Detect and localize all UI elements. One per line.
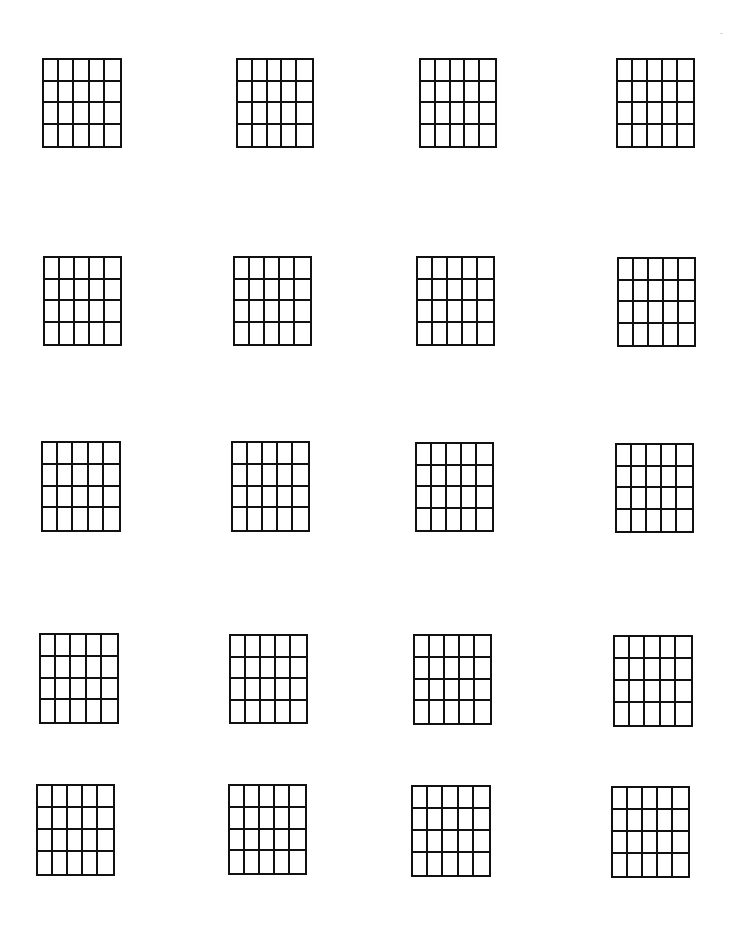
grid-cell: [448, 280, 463, 302]
grid-cell: [628, 788, 643, 810]
grid-cell: [432, 444, 447, 466]
grid-cell: [663, 125, 678, 147]
grid-cell: [260, 851, 275, 873]
grid-cell: [43, 508, 58, 530]
grid-cell: [43, 465, 58, 487]
grid-cell: [664, 324, 679, 346]
grid-cell: [664, 281, 679, 303]
grid-cell: [73, 487, 88, 509]
grid-cell: [276, 701, 291, 723]
grid-cell: [233, 508, 248, 530]
grid-cell: [231, 636, 246, 658]
grid-cell: [263, 443, 278, 465]
grid-cell: [74, 125, 89, 147]
grid-cell: [276, 658, 291, 680]
grid-cell: [58, 465, 73, 487]
grid-cell: [56, 635, 71, 657]
grid-cell: [68, 808, 83, 830]
grid-cell: [58, 487, 73, 509]
grid-cell: [102, 635, 117, 657]
grid-cell: [634, 324, 649, 346]
grid-cell: [421, 103, 436, 125]
grid-cell: [53, 830, 68, 852]
grid-cell: [245, 851, 260, 873]
grid-cell: [265, 323, 280, 345]
grid-cell: [451, 103, 466, 125]
grid-cell: [43, 443, 58, 465]
chord-diagram-grid: [229, 634, 308, 724]
grid-cell: [673, 832, 688, 854]
grid-cell: [275, 808, 290, 830]
chord-diagram-grid: [42, 58, 122, 148]
grid-cell: [617, 467, 632, 489]
grid-cell: [448, 301, 463, 323]
grid-cell: [676, 681, 691, 703]
grid-cell: [238, 82, 253, 104]
grid-cell: [478, 323, 493, 345]
chord-diagram-grid: [236, 58, 314, 148]
grid-cell: [74, 60, 89, 82]
grid-cell: [268, 125, 283, 147]
grid-cell: [480, 82, 495, 104]
grid-cell: [58, 443, 73, 465]
grid-cell: [413, 809, 428, 831]
grid-cell: [291, 701, 306, 723]
grid-cell: [102, 657, 117, 679]
grid-cell: [462, 487, 477, 509]
grid-cell: [663, 82, 678, 104]
grid-cell: [231, 679, 246, 701]
grid-cell: [38, 852, 53, 874]
grid-cell: [253, 125, 268, 147]
grid-cell: [677, 488, 692, 510]
grid-cell: [75, 258, 90, 280]
grid-cell: [613, 788, 628, 810]
grid-cell: [87, 635, 102, 657]
grid-cell: [633, 125, 648, 147]
chord-diagram-grid: [415, 442, 494, 532]
grid-cell: [477, 487, 492, 509]
grid-cell: [643, 854, 658, 876]
grid-cell: [265, 258, 280, 280]
grid-cell: [677, 467, 692, 489]
chord-diagram-grid: [413, 634, 492, 725]
grid-cell: [463, 301, 478, 323]
grid-cell: [230, 851, 245, 873]
grid-cell: [89, 465, 104, 487]
grid-cell: [645, 681, 660, 703]
grid-cell: [75, 280, 90, 302]
grid-cell: [105, 103, 120, 125]
grid-cell: [235, 258, 250, 280]
grid-cell: [90, 60, 105, 82]
grid-cell: [428, 853, 443, 875]
grid-cell: [628, 832, 643, 854]
grid-cell: [104, 443, 119, 465]
grid-cell: [253, 103, 268, 125]
chord-diagram-grid: [43, 256, 122, 346]
grid-cell: [74, 103, 89, 125]
grid-cell: [478, 258, 493, 280]
grid-cell: [73, 465, 88, 487]
grid-cell: [436, 60, 451, 82]
grid-cell: [261, 701, 276, 723]
grid-cell: [632, 467, 647, 489]
grid-cell: [475, 636, 490, 658]
grid-cell: [433, 323, 448, 345]
grid-cell: [98, 852, 113, 874]
grid-cell: [58, 508, 73, 530]
grid-cell: [45, 323, 60, 345]
grid-cell: [430, 658, 445, 680]
grid-cell: [90, 323, 105, 345]
grid-cell: [463, 323, 478, 345]
grid-cell: [265, 280, 280, 302]
grid-cell: [231, 701, 246, 723]
grid-cell: [647, 467, 662, 489]
grid-cell: [56, 679, 71, 701]
grid-cell: [295, 258, 310, 280]
grid-cell: [41, 657, 56, 679]
grid-cell: [415, 636, 430, 658]
grid-cell: [104, 465, 119, 487]
grid-cell: [248, 465, 263, 487]
chord-diagram-grid: [228, 784, 307, 875]
grid-cell: [418, 280, 433, 302]
grid-cell: [87, 679, 102, 701]
